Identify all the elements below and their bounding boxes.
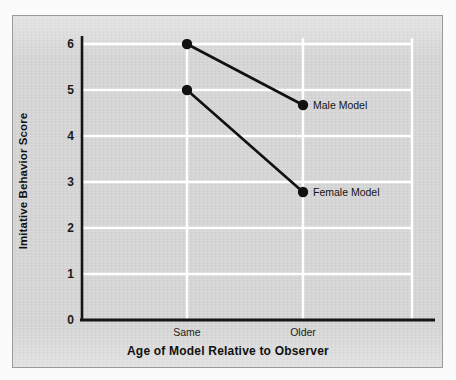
data-point-female-same	[182, 85, 192, 95]
y-tick-0: 0	[56, 314, 74, 326]
x-tick-older: Older	[263, 327, 343, 338]
y-tick-5: 5	[56, 84, 74, 96]
data-point-male-same	[182, 39, 192, 49]
chart-page: 6 5 4 3 2 1 0 Same Older Age of Model Re…	[0, 0, 456, 380]
series-male-model	[182, 39, 308, 110]
y-tick-2: 2	[56, 222, 74, 234]
y-tick-4: 4	[56, 130, 74, 142]
horizontal-gridlines	[82, 44, 412, 274]
y-tick-3: 3	[56, 176, 74, 188]
data-point-female-older	[298, 187, 308, 197]
series-female-model	[182, 85, 308, 197]
y-tick-1: 1	[56, 268, 74, 280]
data-point-male-older	[298, 100, 308, 110]
series-label-female-model: Female Model	[313, 187, 380, 198]
series-label-male-model: Male Model	[313, 100, 367, 111]
axis-lines	[80, 36, 435, 320]
x-tick-same: Same	[147, 327, 227, 338]
vertical-gridlines	[187, 38, 412, 320]
y-tick-6: 6	[56, 38, 74, 50]
x-axis-title: Age of Model Relative to Observer	[0, 344, 456, 358]
y-axis-title: Imitative Behavior Score	[17, 51, 29, 311]
